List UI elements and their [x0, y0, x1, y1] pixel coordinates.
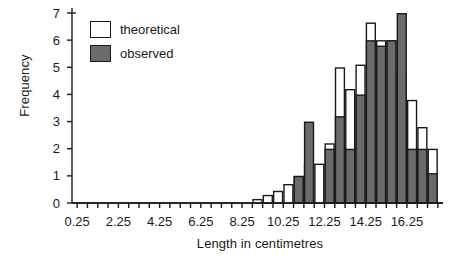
- bar-observed-13.25: [346, 149, 355, 203]
- y-tick-label-0: 0: [38, 197, 60, 210]
- bar-observed-14.25: [366, 41, 375, 203]
- legend-label-observed: observed: [120, 47, 173, 60]
- legend-swatch-observed: [90, 45, 111, 62]
- bar-theoretical-9.75: [274, 191, 283, 203]
- bar-observed-16.25: [408, 149, 417, 203]
- y-tick-label-2: 2: [38, 142, 60, 155]
- bar-observed-14.75: [377, 46, 386, 203]
- bar-observed-11.25: [305, 122, 314, 203]
- legend-swatch-theoretical: [90, 21, 111, 38]
- x-tick-label-14.25: 14.25: [343, 215, 389, 228]
- bar-observed-13.75: [356, 95, 365, 203]
- bar-observed-15.75: [397, 14, 406, 203]
- x-tick-label-0.25: 0.25: [54, 215, 100, 228]
- y-tick-label-1: 1: [38, 169, 60, 182]
- y-tick-label-4: 4: [38, 88, 60, 101]
- x-tick-label-16.25: 16.25: [384, 215, 430, 228]
- bar-observed-15.25: [387, 41, 396, 203]
- x-tick-label-12.25: 12.25: [301, 215, 347, 228]
- legend-label-theoretical: theoretical: [120, 23, 180, 36]
- bar-observed-16.75: [418, 149, 427, 203]
- x-tick-label-4.25: 4.25: [137, 215, 183, 228]
- bar-theoretical-10.25: [284, 185, 293, 203]
- y-tick-label-3: 3: [38, 115, 60, 128]
- x-tick-label-10.25: 10.25: [260, 215, 306, 228]
- bar-theoretical-9.25: [263, 196, 272, 203]
- histogram-figure: Frequency Length in centimetres 01234567…: [0, 0, 469, 262]
- y-tick-label-7: 7: [38, 7, 60, 20]
- y-tick-label-6: 6: [38, 34, 60, 47]
- y-tick-label-5: 5: [38, 61, 60, 74]
- x-tick-label-8.25: 8.25: [219, 215, 265, 228]
- x-tick-label-2.25: 2.25: [95, 215, 141, 228]
- bar-observed-12.75: [335, 117, 344, 203]
- bar-theoretical-11.75: [315, 164, 324, 203]
- bar-observed-17.25: [428, 174, 437, 203]
- bar-observed-12.25: [325, 149, 334, 203]
- bar-observed-10.75: [294, 177, 303, 203]
- x-tick-label-6.25: 6.25: [178, 215, 224, 228]
